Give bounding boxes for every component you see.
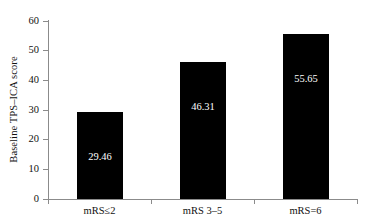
y-axis-tick-label: 20: [0, 132, 39, 146]
y-axis-tick-mark: [43, 50, 49, 51]
y-axis-tick-label: 40: [0, 73, 39, 87]
y-axis-tick-label: 60: [0, 14, 39, 28]
y-axis-tick-label: 50: [0, 43, 39, 57]
bar-value-label: 46.31: [172, 101, 234, 113]
bar-value-label: 55.65: [275, 73, 337, 85]
y-axis-tick-mark: [43, 110, 49, 111]
y-axis-tick-mark: [43, 80, 49, 81]
x-axis-category-label: mRS=6: [254, 204, 357, 218]
y-axis-tick-mark: [43, 139, 49, 140]
y-axis-tick-mark: [43, 169, 49, 170]
y-axis-tick-mark: [43, 21, 49, 22]
y-axis-tick-label: 10: [0, 162, 39, 176]
y-axis-tick-label: 30: [0, 103, 39, 117]
bar: [283, 34, 329, 199]
bar-value-label: 29.46: [69, 151, 131, 163]
y-axis-tick-label: 0: [0, 192, 39, 206]
x-axis-line: [48, 199, 357, 200]
x-axis-category-label: mRS 3–5: [151, 204, 254, 218]
x-axis-category-label: mRS≤2: [48, 204, 151, 218]
bar: [180, 62, 226, 199]
bar-chart: Baseline TPS–ICA score 0102030405060 29.…: [0, 0, 376, 223]
x-axis-tick-mark: [357, 199, 358, 204]
